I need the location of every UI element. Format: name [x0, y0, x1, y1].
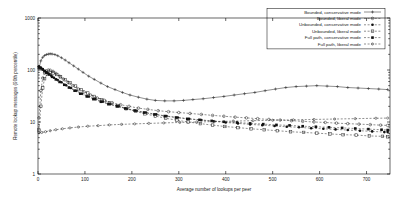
x-tick-label: 600: [316, 177, 324, 182]
x-tick-label: 500: [269, 177, 277, 182]
plot-canvas: 0100200300400500600700 1101001000 Bounde…: [0, 0, 404, 200]
legend-marker-2: [371, 24, 374, 27]
legend-label-4: Full path, conservative mode: [305, 35, 362, 40]
y-tick-label: 100: [27, 68, 35, 73]
legend-label-0: Bounded, conservative mode: [304, 10, 361, 15]
y-tick-label: 10: [30, 120, 36, 125]
x-axis-title: Average number of lookups per peer: [177, 187, 252, 192]
y-axis-title: Remote lookup messages (90th percentile): [13, 52, 18, 140]
x-tick-label: 100: [81, 177, 89, 182]
x-tick-label: 0: [37, 177, 40, 182]
chart-figure: 0100200300400500600700 1101001000 Bounde…: [0, 0, 404, 200]
legend-label-1: Bounded, liberal mode: [317, 16, 361, 21]
legend-label-5: Full path, liberal mode: [318, 42, 362, 47]
legend-label-2: Unbounded, conservative mode: [299, 22, 362, 27]
x-tick-label: 200: [128, 177, 136, 182]
y-tick-label: 1: [32, 172, 35, 177]
y-tick-label: 1000: [25, 16, 36, 21]
x-tick-label: 300: [175, 177, 183, 182]
x-tick-label: 400: [222, 177, 230, 182]
legend-label-3: Unbounded, liberal mode: [312, 29, 362, 34]
legend-marker-4: [371, 36, 374, 39]
x-tick-label: 700: [363, 177, 371, 182]
